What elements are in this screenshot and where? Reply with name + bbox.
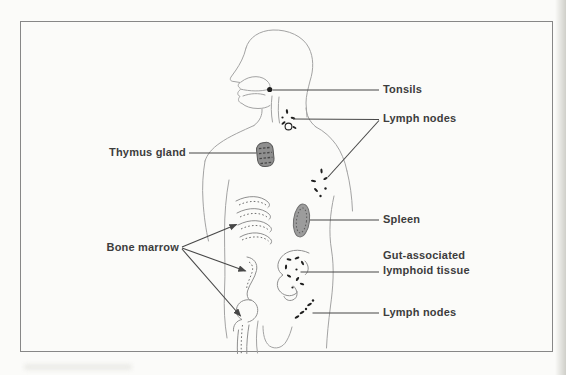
torso-outline (203, 126, 353, 354)
label-bone-marrow: Bone marrow (95, 241, 179, 254)
head-outline (230, 30, 316, 127)
leader-bone-marrow-ribs (182, 225, 237, 248)
axillary-lymph-nodes-marker (311, 169, 328, 198)
hip-bone-marrow-marker (247, 257, 257, 301)
label-gut-line2: lymphoid tissue (383, 264, 470, 276)
leader-lymph-nodes-neck (293, 119, 379, 120)
body-line-art (0, 0, 566, 375)
label-lymph-nodes-lower: Lymph nodes (383, 306, 456, 319)
label-gut-associated-lymphoid-tissue: Gut-associated lymphoid tissue (383, 248, 470, 278)
label-lymph-nodes-upper: Lymph nodes (383, 112, 456, 125)
scanned-page: Tonsils Lymph nodes Thymus gland Spleen … (0, 0, 566, 375)
label-gut-line1: Gut-associated (383, 249, 465, 261)
tonsil-marker (267, 87, 272, 92)
groin-lymph-nodes-marker (294, 299, 314, 319)
label-thymus-gland: Thymus gland (98, 146, 186, 159)
femur-bone-marrow-marker (233, 300, 257, 354)
label-spleen: Spleen (383, 213, 420, 226)
thymus-gland-marker (256, 142, 275, 168)
leader-lymph-nodes-axilla (328, 121, 379, 178)
ribs-bone-marrow-marker (236, 197, 272, 244)
label-tonsils: Tonsils (383, 83, 422, 96)
spleen-marker (292, 203, 312, 238)
gut-lymphoid-marker (277, 250, 309, 300)
